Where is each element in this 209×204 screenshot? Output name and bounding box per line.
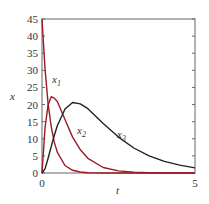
svg-text:35: 35 (27, 47, 39, 59)
series-lines (42, 19, 195, 173)
svg-text:25: 25 (27, 81, 39, 93)
y-axis-ticks: 051015202530354045 (27, 13, 195, 179)
series-x1 (42, 19, 195, 173)
svg-text:45: 45 (27, 13, 39, 25)
y-axis-label: x (9, 90, 15, 102)
svg-text:30: 30 (27, 64, 39, 76)
label-x2: x2 (76, 124, 86, 139)
svg-text:0: 0 (33, 167, 39, 179)
svg-text:0: 0 (39, 177, 45, 189)
svg-text:20: 20 (27, 99, 39, 111)
label-x1: x1 (51, 73, 61, 88)
svg-text:10: 10 (27, 133, 39, 145)
svg-text:40: 40 (27, 30, 39, 42)
svg-text:5: 5 (192, 177, 198, 189)
plot-frame (42, 19, 195, 173)
label-x3: x3 (116, 128, 126, 143)
svg-text:15: 15 (27, 116, 39, 128)
x-axis-label: t (116, 184, 120, 196)
svg-text:5: 5 (33, 150, 39, 162)
line-chart: 051015202530354045 05 x t x1 x2 x3 (0, 0, 209, 204)
